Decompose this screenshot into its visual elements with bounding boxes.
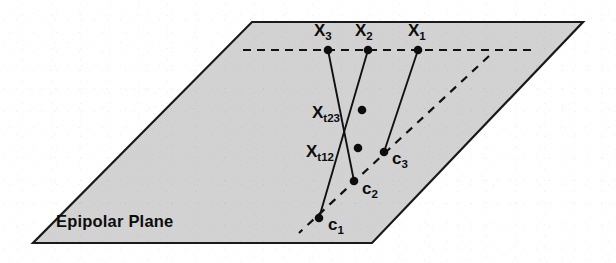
point-marker-x3 xyxy=(324,46,333,55)
label-xt23-subscript: t23 xyxy=(323,112,340,124)
label-xt12-subscript: t12 xyxy=(317,151,334,163)
label-c3-subscript: 3 xyxy=(401,158,407,170)
point-marker-x1 xyxy=(414,46,423,55)
label-c2-subscript: 2 xyxy=(371,188,377,200)
label-xt23-base: X xyxy=(312,103,323,122)
label-x3-base: X xyxy=(314,21,325,40)
label-x2-base: X xyxy=(355,21,366,40)
point-marker-xt12 xyxy=(354,144,363,153)
point-marker-xt23 xyxy=(358,106,367,115)
label-x2: X2 xyxy=(355,22,373,39)
label-xt23: Xt23 xyxy=(312,104,340,121)
epipolar-plane-caption: Epipolar Plane xyxy=(56,213,173,230)
label-xt12: Xt12 xyxy=(306,143,334,160)
point-marker-c3 xyxy=(380,148,389,157)
label-x1-subscript: 1 xyxy=(419,30,425,42)
label-c3: c3 xyxy=(392,150,408,167)
label-x1: X1 xyxy=(408,22,426,39)
label-x3-subscript: 3 xyxy=(325,30,331,42)
label-c2: c2 xyxy=(362,180,378,197)
label-xt12-base: X xyxy=(306,142,317,161)
label-x2-subscript: 2 xyxy=(366,30,372,42)
label-c1: c1 xyxy=(328,216,344,233)
epipolar-plane-surface xyxy=(33,22,583,243)
epipolar-plane-figure: X3 X2 X1 Xt23 Xt12 c3 c2 c1 Epipolar Pla… xyxy=(0,0,616,263)
point-marker-x2 xyxy=(364,46,373,55)
point-marker-c2 xyxy=(350,177,359,186)
label-c1-subscript: 1 xyxy=(337,224,343,236)
point-marker-c1 xyxy=(315,214,324,223)
label-x3: X3 xyxy=(314,22,332,39)
label-x1-base: X xyxy=(408,21,419,40)
